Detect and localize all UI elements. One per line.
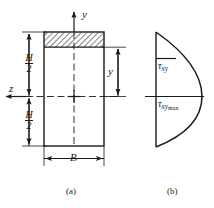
caption-panel-a: (a): [66, 186, 76, 196]
half-height-lower-denominator: 2: [21, 121, 37, 131]
label-tau-xy-max: τxymax: [158, 99, 179, 111]
half-height-upper-denominator: 2: [21, 64, 37, 74]
centroid-cross: [68, 90, 81, 103]
shear-area-hatch: [44, 33, 104, 48]
y-axis-label: y: [82, 9, 87, 20]
figure-drawing: [0, 0, 214, 208]
dimension-label-half-height-upper: H 2: [21, 53, 37, 74]
label-tau-xy: τxy: [158, 61, 168, 73]
extension-lines-right: [102, 47, 126, 96]
dimension-label-half-height-lower: H 2: [21, 110, 37, 131]
tau-subscript: xy: [162, 65, 168, 73]
dimension-label-y-distance: y: [108, 66, 113, 77]
half-height-lower-numerator: H: [21, 110, 37, 120]
figure-root: y z H 2 H 2 y B (a) τxy τxymax (b): [0, 0, 214, 208]
half-height-upper-numerator: H: [21, 53, 37, 63]
shear-stress-parabola: [156, 32, 202, 147]
tau-max-subscript2: max: [168, 104, 179, 111]
dimension-label-width-B: B: [70, 152, 77, 163]
z-axis-label: z: [9, 83, 13, 94]
caption-panel-b: (b): [167, 186, 178, 196]
